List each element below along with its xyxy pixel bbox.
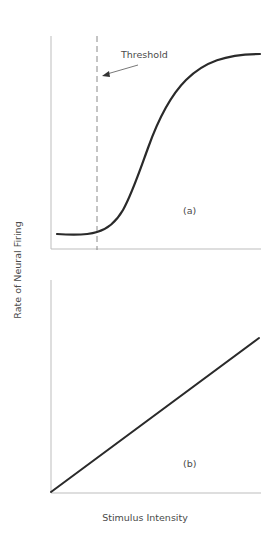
threshold-arrow-head-icon xyxy=(102,71,110,77)
panel-b-label: (b) xyxy=(183,458,196,469)
y-axis-label: Rate of Neural Firing xyxy=(12,221,23,318)
sigmoid-curve xyxy=(57,54,260,235)
panel-a-label: (a) xyxy=(183,205,196,216)
panel-b: (b) xyxy=(51,280,261,493)
x-axis-label: Stimulus Intensity xyxy=(102,512,188,523)
threshold-arrow-shaft xyxy=(107,65,138,74)
threshold-label: Threshold xyxy=(120,49,168,60)
linear-response-line xyxy=(51,338,259,492)
figure: Threshold (a) (b) Rate of Neural Firing … xyxy=(0,0,270,538)
panel-a: Threshold (a) xyxy=(51,36,261,250)
